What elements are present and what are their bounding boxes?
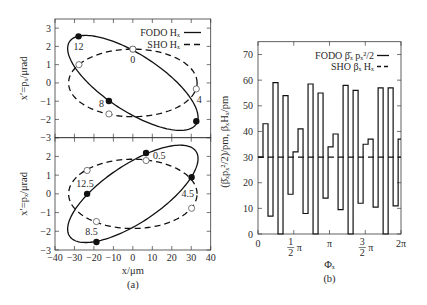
y-tick-label: 50 — [243, 100, 253, 111]
sho-point — [106, 111, 112, 117]
sho-point — [143, 157, 149, 163]
y-tick-label: −2 — [40, 114, 51, 125]
y-tick-label: −1 — [40, 96, 51, 107]
y-tick-label: 60 — [243, 75, 253, 86]
x-tick-label: 2π — [396, 238, 406, 249]
y-tick-label: 1 — [46, 170, 51, 181]
sho-point — [193, 86, 199, 92]
x-tick-label: 20 — [167, 252, 177, 263]
point-label: 0.5 — [153, 150, 166, 161]
fodo-point — [93, 239, 99, 245]
x-tick-label: −10 — [106, 252, 122, 263]
x-axis-label: x/μm — [122, 265, 144, 276]
y-tick-label: −3 — [40, 132, 51, 143]
fodo-point — [84, 191, 90, 197]
point-label: 12 — [74, 41, 84, 52]
sho-point — [76, 62, 82, 68]
legend-label: SHO βₓ Hₓ — [331, 61, 374, 72]
phase-space-top-panel: −3−2−10123x′=pₓ/μrad04812FODO HₓSHO Hₓ — [18, 19, 211, 143]
y-tick-label: −3 — [40, 245, 51, 256]
y-tick-label: 0 — [248, 229, 253, 240]
step-plot-panel: 012ππ32π2π010203040506070(β̄ₓpₓ²/2)/pm, … — [219, 42, 406, 270]
sho-point — [93, 218, 99, 224]
x-tick-label: π — [368, 242, 373, 253]
x-axis-label: Φₓ — [324, 259, 336, 270]
caption-b: (b) — [323, 273, 336, 285]
fodo-point — [188, 174, 194, 180]
point-label: 8.5 — [85, 226, 98, 237]
y-axis-label: x′=pₓ/μrad — [18, 171, 29, 215]
y-tick-label: 2 — [46, 41, 51, 52]
fodo-point — [193, 118, 199, 124]
y-tick-label: 3 — [46, 23, 51, 34]
point-label: 4.5 — [181, 188, 194, 199]
point-label: 8 — [99, 98, 104, 109]
x-tick-denominator: 2 — [360, 247, 365, 258]
fodo-point — [75, 33, 81, 39]
sho-point — [130, 46, 136, 52]
x-tick-label: 30 — [186, 252, 196, 263]
caption-a: (a) — [127, 279, 139, 291]
sho-point — [189, 205, 195, 211]
plot-frame — [258, 42, 401, 234]
y-tick-label: 30 — [243, 152, 253, 163]
x-tick-label: π — [297, 242, 302, 253]
x-tick-label: 40 — [206, 252, 216, 263]
y-tick-label: 70 — [243, 49, 253, 60]
fodo-point — [106, 98, 112, 104]
x-tick-label: π — [327, 238, 332, 249]
legend-label: FODO Hₓ — [140, 27, 180, 38]
y-tick-label: 0 — [46, 77, 51, 88]
legend-label: FODO β̄ₓ pₓ²/2 — [315, 50, 374, 61]
x-tick-numerator: 1 — [288, 236, 293, 247]
x-tick-numerator: 3 — [360, 236, 365, 247]
x-tick-label: −30 — [67, 252, 83, 263]
y-tick-label: 40 — [243, 126, 253, 137]
point-label: 0 — [130, 54, 135, 65]
sho-point — [84, 167, 90, 173]
point-label: 4 — [197, 94, 202, 105]
y-tick-label: −1 — [40, 207, 51, 218]
fodo-point — [143, 150, 149, 156]
y-tick-label: 20 — [243, 177, 253, 188]
x-tick-label: 10 — [147, 252, 157, 263]
point-label: 12.5 — [76, 178, 94, 189]
figure: −3−2−10123x′=pₓ/μrad04812FODO HₓSHO Hₓ−4… — [0, 0, 427, 305]
y-axis-label: (β̄ₓpₓ²/2)/pm, βₓHₓ/pm — [219, 96, 231, 188]
fodo-step-series — [258, 83, 401, 234]
y-tick-label: 10 — [243, 203, 253, 214]
x-tick-label: 0 — [130, 252, 135, 263]
y-tick-label: 0 — [46, 188, 51, 199]
y-tick-label: −2 — [40, 226, 51, 237]
phase-space-bottom-panel: −40−30−20−10010203040−3−2−1012x′=pₓ/μrad… — [18, 138, 216, 276]
legend-label: SHO Hₓ — [147, 39, 180, 50]
y-tick-label: 1 — [46, 59, 51, 70]
y-tick-label: 2 — [46, 151, 51, 162]
x-tick-label: −20 — [86, 252, 102, 263]
x-tick-label: 0 — [256, 238, 261, 249]
y-axis-label: x′=pₓ/μrad — [18, 56, 29, 100]
x-tick-denominator: 2 — [288, 247, 293, 258]
